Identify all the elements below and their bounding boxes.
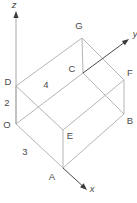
- x-axis-label: x: [89, 183, 96, 194]
- edge-C-O: [16, 73, 83, 124]
- vertex-label-F: F: [127, 67, 133, 78]
- edge-D-E: [16, 86, 63, 130]
- vertex-label-E: E: [67, 130, 73, 141]
- vertex-label-A: A: [49, 171, 56, 182]
- vertex-label-C: C: [69, 63, 76, 74]
- dimension-label-3: 3: [22, 146, 27, 157]
- z-axis-arrowhead-icon: [13, 11, 18, 18]
- edge-C-G: [82, 38, 83, 73]
- edge-B-C: [83, 73, 124, 114]
- vertex-label-D: D: [5, 76, 12, 87]
- dimension-label-2: 2: [4, 97, 9, 108]
- figure-canvas: zxyOABCDEFG234: [0, 0, 137, 203]
- y-axis: [83, 42, 125, 73]
- y-axis-label: y: [132, 28, 137, 39]
- vertex-label-B: B: [127, 115, 133, 126]
- vertex-label-O: O: [3, 119, 10, 130]
- y-axis-arrowhead-icon: [122, 39, 129, 45]
- edge-G-D: [16, 38, 82, 86]
- edge-F-G: [82, 38, 124, 80]
- vertex-label-G: G: [75, 20, 82, 31]
- dimension-label-4: 4: [43, 79, 48, 90]
- box-diagram-svg: zxyOABCDEFG234: [0, 0, 137, 203]
- x-axis: [63, 168, 83, 187]
- z-axis-label: z: [11, 0, 17, 10]
